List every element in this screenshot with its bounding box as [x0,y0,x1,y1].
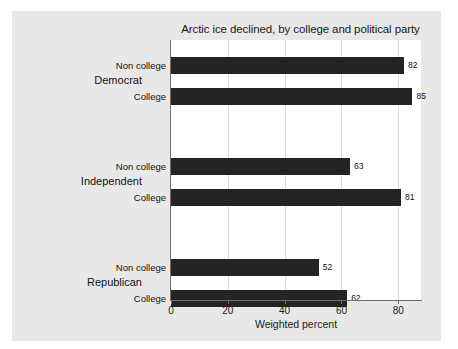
x-axis-line [170,300,422,301]
bar [171,290,347,307]
x-tick-label-0: 0 [168,305,174,316]
bar [171,189,401,206]
bar-value-label: 52 [323,259,332,276]
x-tick-label-40: 40 [279,305,290,316]
plot-area: 828563815262 [171,40,421,300]
bar [171,88,412,105]
bar-value-label: 82 [408,57,417,74]
tick-mark-0 [171,300,172,304]
bar-category-label: Non college [116,158,166,175]
group-label-democrat: Democrat [94,74,142,86]
x-tick-label-20: 20 [222,305,233,316]
chart-title: Arctic ice declined, by college and poli… [158,23,443,35]
bar [171,57,404,74]
bar-value-label: 81 [405,189,414,206]
bar [171,158,350,175]
gridline-80 [398,40,399,300]
x-axis-title: Weighted percent [171,318,421,330]
tick-mark-80 [398,300,399,304]
bar-category-label: College [134,88,166,105]
tick-mark-40 [285,300,286,304]
bar-category-label: College [134,290,166,307]
bar-category-label: Non college [116,57,166,74]
group-label-republican: Republican [87,276,142,288]
group-label-independent: Independent [81,175,142,187]
bar-value-label: 62 [351,290,360,307]
y-axis-line [170,40,171,301]
x-tick-label-60: 60 [336,305,347,316]
tick-mark-60 [341,300,342,304]
x-tick-label-80: 80 [393,305,404,316]
chart-canvas: Arctic ice declined, by college and poli… [0,0,458,349]
bar-value-label: 63 [354,158,363,175]
bar [171,259,319,276]
bar-category-label: College [134,189,166,206]
bar-category-label: Non college [116,259,166,276]
bar-value-label: 85 [416,88,425,105]
tick-mark-20 [228,300,229,304]
